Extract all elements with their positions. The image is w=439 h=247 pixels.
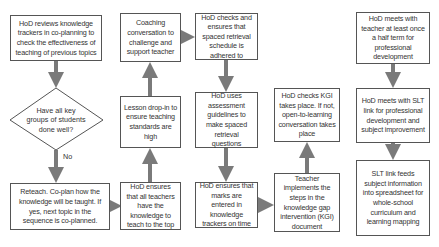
node-marks-entered: HoD ensures that marks are entered in kn… [195, 182, 258, 228]
node-meet-slt: HoD meets with SLT link for professional… [356, 88, 430, 143]
node-review: HoD reviews knowledge trackers in co-pla… [10, 15, 102, 61]
decision-no-label: No [63, 152, 72, 161]
node-assessment-guidelines: HoD uses assessment guidelines to make s… [195, 92, 258, 148]
node-decision: Have all key groups of students done wel… [26, 100, 86, 140]
node-slt-feeds: SLT link feeds subject information into … [356, 160, 430, 236]
node-coaching: Coaching conversation to challenge and s… [120, 13, 181, 62]
node-spaced-schedule: HoD checks and ensures that spaced retri… [195, 13, 258, 60]
node-kgi-check: HoD checks KGI takes place. If not, open… [274, 88, 340, 142]
node-teacher-implements: Teacher implements the steps in the know… [274, 173, 340, 232]
node-reteach: Reteach. Co-plan how the knowledge will … [10, 183, 110, 230]
node-meet-teacher: HoD meets with teacher at least once a h… [356, 12, 430, 64]
node-lesson-dropin: Lesson drop-in to ensure teaching standa… [120, 96, 181, 148]
node-ensure-teachers: HoD ensures that all teachers have the k… [120, 182, 181, 230]
